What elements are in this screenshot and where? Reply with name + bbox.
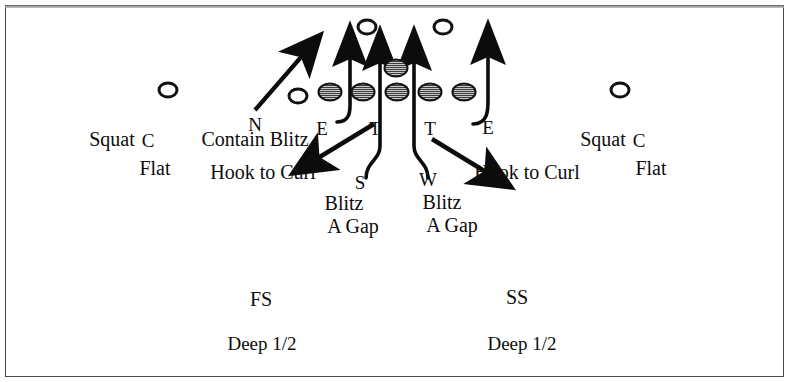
assignment-flat-left: Flat <box>139 158 170 178</box>
assignment-squat-right: Squat <box>580 129 626 149</box>
play-diagram: N E T T E S W C C Squat Flat Squat Flat … <box>0 0 789 382</box>
assignment-flat-right: Flat <box>635 158 666 178</box>
defender-mid <box>385 83 410 102</box>
label-will: W <box>419 170 437 189</box>
label-tackle-right: T <box>424 119 436 138</box>
label-sam: S <box>355 173 366 192</box>
label-tackle-left: T <box>369 119 381 138</box>
defender-end-left <box>318 83 343 102</box>
defender-tackle-left <box>351 83 376 102</box>
offense-wr-right <box>610 82 631 99</box>
assignment-sam-gap: A Gap <box>327 216 379 236</box>
offense-te-left <box>288 88 309 105</box>
assignment-hook-to-curl-right: Hook to Curl <box>474 162 580 182</box>
label-end-right: E <box>482 118 494 137</box>
label-corner-right: C <box>633 131 646 150</box>
assignment-deep-half-left: Deep 1/2 <box>227 334 296 353</box>
defender-tackle-right <box>418 83 443 102</box>
label-strong-safety: SS <box>506 287 528 307</box>
route-overlay <box>0 0 789 382</box>
offense-back-left <box>357 19 378 36</box>
assignment-deep-half-right: Deep 1/2 <box>487 334 556 353</box>
label-corner-left: C <box>142 131 155 150</box>
assignment-contain-blitz: Contain Blitz <box>201 129 308 149</box>
label-end-left: E <box>316 119 328 138</box>
offense-back-right <box>433 19 454 36</box>
offense-wr-left <box>158 82 179 99</box>
defender-nose <box>384 59 409 78</box>
assignment-will-gap: A Gap <box>426 215 478 235</box>
assignment-sam-blitz: Blitz <box>325 193 364 213</box>
assignment-squat-left: Squat <box>89 129 135 149</box>
assignment-hook-to-curl-left: Hook to Curl <box>210 162 316 182</box>
label-free-safety: FS <box>250 289 272 309</box>
field-area: N E T T E S W C C Squat Flat Squat Flat … <box>0 0 789 382</box>
defender-end-right <box>452 83 477 102</box>
assignment-will-blitz: Blitz <box>423 192 462 212</box>
